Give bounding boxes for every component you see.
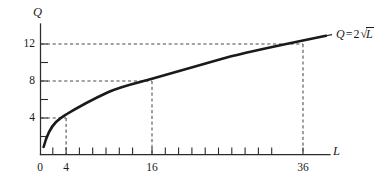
- x-tick-label-4: 4: [56, 162, 76, 174]
- y-tick-label-4: 4: [13, 112, 35, 124]
- equation-leader-line: [326, 35, 332, 36]
- equation-radical: √L: [359, 27, 373, 40]
- x-origin-label: 0: [30, 162, 50, 174]
- curve-q-equals-2-sqrt-l: [44, 36, 326, 147]
- x-tick-group: [53, 148, 303, 155]
- plot-canvas: [0, 0, 385, 183]
- x-axis-label: L: [333, 145, 340, 158]
- equation-radicand: L: [366, 27, 374, 40]
- x-tick-label-36: 36: [293, 162, 313, 174]
- y-tick-group: [41, 44, 49, 137]
- curve-equation-label: Q=2√L: [336, 27, 374, 40]
- y-axis-label: Q: [33, 6, 42, 19]
- y-tick-label-8: 8: [13, 75, 35, 87]
- y-tick-label-12: 12: [13, 38, 35, 50]
- x-tick-label-16: 16: [142, 162, 162, 174]
- graph-figure: Q L 12 8 4 0 4 16 36 Q=2√L: [0, 0, 385, 183]
- equation-lhs: Q: [336, 27, 345, 41]
